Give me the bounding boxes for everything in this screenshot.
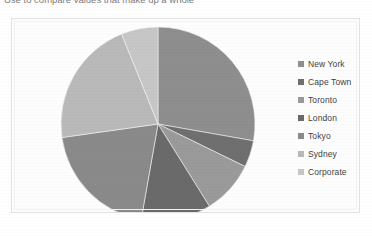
- legend-item-label: Toronto: [308, 95, 337, 105]
- legend-item[interactable]: Cape Town: [298, 73, 370, 91]
- legend-item[interactable]: New York: [298, 55, 370, 73]
- legend-swatch-icon: [298, 97, 304, 103]
- caption-text: Use to compare values that make up a who…: [4, 0, 194, 6]
- legend-item[interactable]: London: [298, 109, 370, 127]
- legend-item-label: Sydney: [308, 149, 337, 159]
- legend-item-label: Tokyo: [308, 131, 331, 141]
- legend-item[interactable]: Corporate: [298, 163, 370, 181]
- legend-item-label: Cape Town: [308, 77, 351, 87]
- legend-item[interactable]: Toronto: [298, 91, 370, 109]
- legend-item-label: London: [308, 113, 337, 123]
- pie-slice[interactable]: [62, 124, 158, 212]
- legend-swatch-icon: [298, 151, 304, 157]
- legend-swatch-icon: [298, 79, 304, 85]
- plot-area[interactable]: [12, 19, 290, 212]
- pie-slice[interactable]: [158, 27, 255, 141]
- pie-slice-group: [61, 27, 255, 212]
- caption-strip: Use to compare values that make up a who…: [0, 0, 372, 9]
- legend-item-label: New York: [308, 59, 345, 69]
- legend-item[interactable]: Tokyo: [298, 127, 370, 145]
- legend-swatch-icon: [298, 169, 304, 175]
- legend-swatch-icon: [298, 61, 304, 67]
- legend-item[interactable]: Sydney: [298, 145, 370, 163]
- legend-swatch-icon: [298, 115, 304, 121]
- pie-chart[interactable]: [12, 19, 290, 212]
- chart-frame[interactable]: New York Cape Town Toronto London Tokyo …: [11, 18, 360, 213]
- legend-swatch-icon: [298, 133, 304, 139]
- chart-legend: New York Cape Town Toronto London Tokyo …: [298, 55, 370, 181]
- legend-item-label: Corporate: [308, 167, 347, 177]
